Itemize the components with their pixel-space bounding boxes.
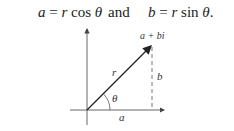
point-label: a + bi [140,30,165,41]
angle-label: θ [112,92,118,104]
angle-arc [103,94,110,110]
vertical-label: b [157,70,163,82]
complex-plane-diagram: a + bi r θ a b [0,0,234,131]
radius-label: r [112,66,117,78]
vector-r [87,46,151,110]
horizontal-label: a [119,111,125,123]
